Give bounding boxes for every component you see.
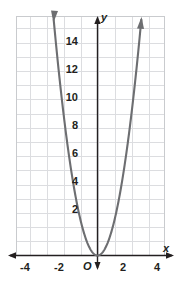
grid-frame	[17, 17, 165, 256]
origin-label: O	[83, 261, 92, 272]
y-axis-label: y	[101, 12, 107, 23]
y-tick-label-12: 12	[66, 64, 78, 75]
x-tick-label-4: 4	[148, 262, 166, 273]
y-tick-label-14: 14	[66, 36, 78, 47]
x-tick-label-2: 2	[114, 262, 132, 273]
x-tick-label-neg2: -2	[50, 262, 68, 273]
x-axis-label: x	[163, 243, 169, 254]
y-tick-label-8: 8	[72, 120, 78, 131]
coordinate-plane-svg	[0, 0, 182, 292]
y-tick-label-6: 6	[72, 148, 78, 159]
y-tick-label-2: 2	[72, 204, 78, 215]
y-tick-label-4: 4	[72, 176, 78, 187]
gridlines-group	[17, 17, 165, 256]
y-tick-label-10: 10	[66, 92, 78, 103]
x-tick-label-neg4: -4	[16, 262, 34, 273]
graph-figure: 14 12 10 8 6 4 2 -4 -2 2 4 O y x	[0, 0, 182, 292]
